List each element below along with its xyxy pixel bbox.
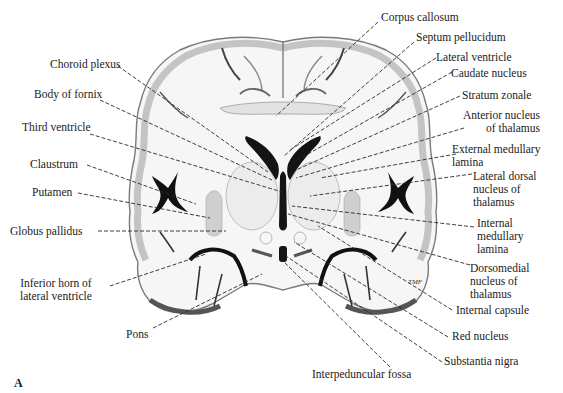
panel-letter: A: [14, 376, 23, 391]
label-internal-capsule: Internal capsule: [456, 304, 529, 317]
label-anterior-nucleus-thalamus: Anterior nucleus of thalamus: [463, 109, 540, 135]
label-corpus-callosum: Corpus callosum: [381, 11, 459, 24]
brain-coronal-section-figure: TMF Choroid pl: [0, 0, 563, 393]
label-lateral-dorsal-nucleus-thalamus: Lateral dorsal nucleus of thalamus: [473, 170, 537, 209]
label-choroid-plexus: Choroid plexus: [50, 58, 121, 71]
thalamus-left: [226, 162, 278, 230]
label-red-nucleus: Red nucleus: [452, 330, 509, 343]
label-stratum-zonale: Stratum zonale: [462, 89, 531, 102]
label-claustrum: Claustrum: [30, 158, 78, 171]
label-dorsomedial-nucleus-thalamus: Dorsomedial nucleus of thalamus: [470, 262, 529, 301]
artist-signature: TMF: [408, 278, 423, 286]
third-ventricle-shape: [279, 172, 287, 231]
label-interpeduncular-fossa: Interpeduncular fossa: [312, 368, 411, 381]
label-substantia-nigra: Substantia nigra: [444, 355, 518, 368]
label-putamen: Putamen: [32, 186, 72, 199]
label-septum-pellucidum: Septum pellucidum: [416, 31, 506, 44]
putamen-left: [206, 191, 222, 236]
label-body-of-fornix: Body of fornix: [34, 88, 102, 101]
label-internal-medullary-lamina: Internal medullary lamina: [477, 217, 524, 256]
label-globus-pallidus: Globus pallidus: [10, 225, 83, 238]
label-caudate-nucleus: Caudate nucleus: [451, 67, 527, 80]
label-lateral-ventricle: Lateral ventricle: [436, 51, 512, 64]
label-inferior-horn-lateral-ventricle: Inferior horn of lateral ventricle: [20, 277, 92, 303]
label-external-medullary-lamina: External medullary lamina: [452, 143, 540, 169]
cerebral-aqueduct-shape: [279, 246, 287, 262]
label-pons: Pons: [126, 328, 148, 341]
label-third-ventricle: Third ventricle: [22, 121, 91, 134]
